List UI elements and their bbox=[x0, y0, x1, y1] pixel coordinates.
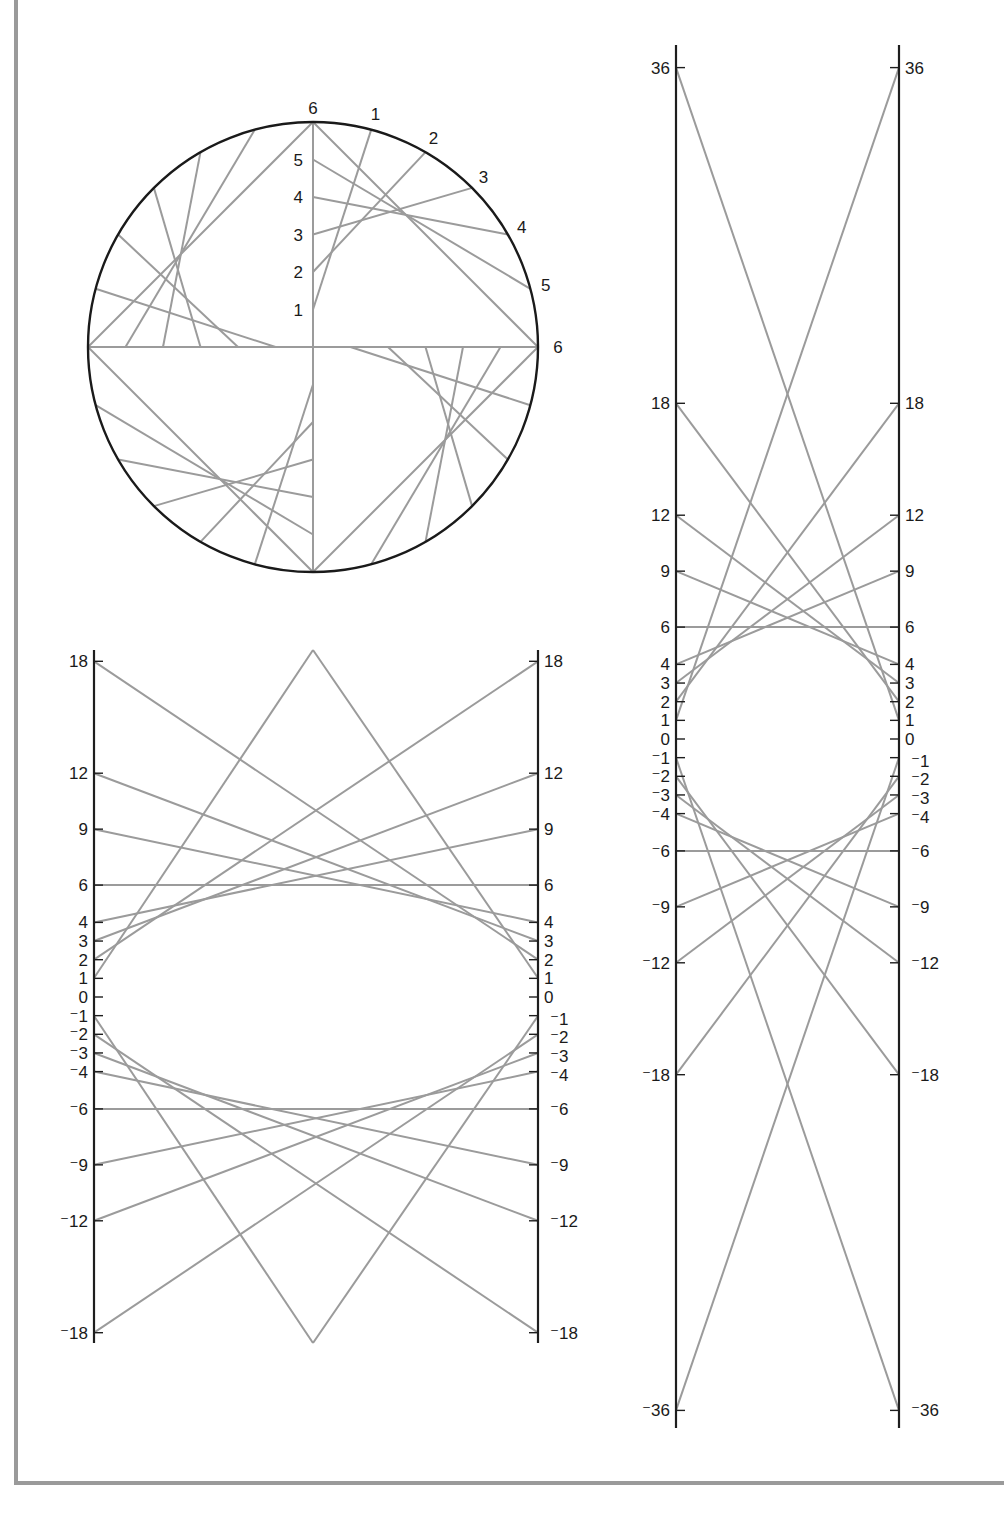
right-tick-label: ⁻1 bbox=[550, 1010, 568, 1029]
arc-label: 6 bbox=[553, 338, 562, 357]
left-tick-label: 12 bbox=[651, 506, 670, 525]
left-tick-label: 12 bbox=[69, 764, 88, 783]
right-tick-label: ⁻3 bbox=[550, 1047, 568, 1066]
radial-label: 5 bbox=[294, 151, 303, 170]
left-tick-label: 0 bbox=[661, 730, 670, 749]
left-tick-label: 1 bbox=[661, 711, 670, 730]
thread-line bbox=[118, 460, 313, 498]
left-tick-label: ⁻6 bbox=[70, 1100, 88, 1119]
ellipse-figure: 1818121299664433221100⁻1⁻1⁻2⁻2⁻3⁻3⁻4⁻4⁻6… bbox=[60, 650, 578, 1343]
thread-line bbox=[313, 188, 472, 235]
left-tick-label: ⁻12 bbox=[642, 954, 670, 973]
right-tick-label: 12 bbox=[544, 764, 563, 783]
left-tick-label: 1 bbox=[79, 969, 88, 988]
apex-line bbox=[313, 650, 538, 978]
left-tick-label: 6 bbox=[79, 876, 88, 895]
left-tick-label: ⁻3 bbox=[652, 786, 670, 805]
right-tick-label: 1 bbox=[905, 711, 914, 730]
right-tick-label: ⁻18 bbox=[550, 1324, 578, 1343]
arc-label: 5 bbox=[541, 276, 550, 295]
left-tick-label: 6 bbox=[661, 618, 670, 637]
right-tick-label: 0 bbox=[905, 730, 914, 749]
left-tick-label: 36 bbox=[651, 59, 670, 78]
right-tick-label: ⁻3 bbox=[911, 789, 929, 808]
arc-label: 2 bbox=[429, 129, 438, 148]
arc-label: 1 bbox=[371, 105, 380, 124]
right-tick-label: 9 bbox=[544, 820, 553, 839]
right-tick-label: ⁻12 bbox=[911, 954, 939, 973]
right-tick-label: 2 bbox=[905, 693, 914, 712]
left-tick-label: ⁻6 bbox=[652, 842, 670, 861]
left-tick-label: ⁻1 bbox=[652, 749, 670, 768]
right-tick-label: 18 bbox=[905, 394, 924, 413]
apex-line bbox=[94, 650, 313, 978]
arc-label: 4 bbox=[517, 218, 526, 237]
right-tick-label: ⁻6 bbox=[550, 1100, 568, 1119]
thread-line bbox=[154, 460, 313, 507]
right-tick-label: 12 bbox=[905, 506, 924, 525]
left-tick-label: ⁻9 bbox=[652, 898, 670, 917]
left-tick-label: ⁻36 bbox=[642, 1401, 670, 1420]
radial-label: 3 bbox=[294, 226, 303, 245]
right-tick-label: 0 bbox=[544, 988, 553, 1007]
left-tick-label: 2 bbox=[79, 951, 88, 970]
left-tick-label: ⁻1 bbox=[70, 1007, 88, 1026]
thread-line bbox=[163, 152, 201, 347]
right-tick-label: ⁻4 bbox=[550, 1066, 568, 1085]
right-tick-label: 3 bbox=[544, 932, 553, 951]
right-tick-label: 18 bbox=[544, 652, 563, 671]
left-tick-label: 4 bbox=[79, 913, 88, 932]
right-tick-label: 4 bbox=[905, 655, 914, 674]
left-tick-label: ⁻18 bbox=[60, 1324, 88, 1343]
left-tick-label: ⁻3 bbox=[70, 1044, 88, 1063]
right-tick-label: 6 bbox=[905, 618, 914, 637]
left-tick-label: ⁻4 bbox=[652, 805, 670, 824]
radial-label: 1 bbox=[294, 301, 303, 320]
thread-line bbox=[426, 347, 473, 506]
right-tick-label: 4 bbox=[544, 913, 553, 932]
right-tick-label: 2 bbox=[544, 951, 553, 970]
left-tick-label: ⁻12 bbox=[60, 1212, 88, 1231]
left-tick-label: 18 bbox=[69, 652, 88, 671]
left-tick-label: ⁻2 bbox=[652, 767, 670, 786]
left-tick-label: ⁻9 bbox=[70, 1156, 88, 1175]
circle-figure: 123456123456 bbox=[88, 99, 563, 572]
thread-line bbox=[154, 188, 201, 347]
right-tick-label: 1 bbox=[544, 969, 553, 988]
apex-line bbox=[313, 1016, 538, 1343]
right-tick-label: ⁻9 bbox=[550, 1156, 568, 1175]
radial-label: 2 bbox=[294, 263, 303, 282]
left-tick-label: ⁻4 bbox=[70, 1063, 88, 1082]
radial-label: 4 bbox=[294, 188, 303, 207]
left-tick-label: ⁻18 bbox=[642, 1066, 670, 1085]
left-tick-label: 0 bbox=[79, 988, 88, 1007]
radial-label-top: 6 bbox=[308, 99, 317, 118]
right-tick-label: 6 bbox=[544, 876, 553, 895]
left-tick-label: 9 bbox=[79, 820, 88, 839]
left-tick-label: ⁻2 bbox=[70, 1025, 88, 1044]
right-tick-label: ⁻9 bbox=[911, 898, 929, 917]
left-tick-label: 3 bbox=[79, 932, 88, 951]
right-tick-label: ⁻6 bbox=[911, 842, 929, 861]
thread-line bbox=[426, 347, 464, 542]
left-tick-label: 3 bbox=[661, 674, 670, 693]
right-tick-label: ⁻2 bbox=[550, 1028, 568, 1047]
apex-line bbox=[94, 1016, 313, 1343]
right-tick-label: ⁻12 bbox=[550, 1212, 578, 1231]
tall-envelope-figure: 36361818121299664433221100⁻1⁻1⁻2⁻2⁻3⁻3⁻4… bbox=[642, 45, 939, 1428]
right-tick-label: 36 bbox=[905, 59, 924, 78]
left-tick-label: 2 bbox=[661, 693, 670, 712]
left-tick-label: 9 bbox=[661, 562, 670, 581]
right-tick-label: 3 bbox=[905, 674, 914, 693]
left-tick-label: 18 bbox=[651, 394, 670, 413]
thread-line bbox=[313, 197, 508, 235]
right-tick-label: ⁻18 bbox=[911, 1066, 939, 1085]
left-tick-label: 4 bbox=[661, 655, 670, 674]
right-tick-label: ⁻2 bbox=[911, 770, 929, 789]
right-tick-label: ⁻4 bbox=[911, 808, 929, 827]
right-tick-label: ⁻1 bbox=[911, 752, 929, 771]
right-tick-label: 9 bbox=[905, 562, 914, 581]
arc-label: 3 bbox=[479, 168, 488, 187]
right-tick-label: ⁻36 bbox=[911, 1401, 939, 1420]
